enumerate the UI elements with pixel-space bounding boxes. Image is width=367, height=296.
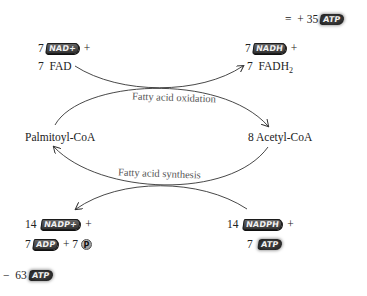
atp-input: 7 ATP bbox=[247, 237, 283, 251]
atp-count: 63 bbox=[15, 269, 27, 281]
nad-plus-icon: NAD+ bbox=[45, 43, 80, 54]
atp-icon: ATP bbox=[28, 270, 53, 281]
net-oxidation-yield: = + 35ATP bbox=[285, 12, 346, 26]
palmitoyl-coa-node: Palmitoyl-CoA bbox=[25, 130, 95, 144]
atp-count: 35 bbox=[307, 13, 319, 25]
fadh2-output: 7 FADH2 bbox=[247, 59, 293, 78]
nadp-plus-icon: NADP+ bbox=[41, 219, 82, 230]
nad-plus-input: 7NAD+ + bbox=[38, 41, 90, 55]
adp-pi-output: 7ADP + 7 P bbox=[25, 237, 92, 251]
coefficient: 14 bbox=[25, 218, 37, 230]
fadh-label: FADH bbox=[259, 60, 289, 72]
plus-sign: + bbox=[297, 13, 304, 25]
fad-input: 7 FAD bbox=[38, 59, 72, 73]
plus-sign: + bbox=[85, 218, 92, 230]
adp-icon: ADP bbox=[32, 239, 59, 250]
plus-sign: + bbox=[63, 238, 70, 250]
equals-sign: = bbox=[285, 13, 292, 25]
coefficient: 7 bbox=[247, 60, 253, 72]
nadph-icon: NADPH bbox=[243, 219, 284, 230]
coefficient: 7 bbox=[38, 42, 44, 54]
synthesis-arrow bbox=[54, 147, 268, 185]
subscript: 2 bbox=[289, 66, 293, 75]
coefficient: 7 bbox=[245, 42, 251, 54]
minus-sign: − bbox=[3, 269, 10, 281]
nadh-output: 7NADH + bbox=[245, 41, 297, 55]
plus-sign: + bbox=[84, 42, 91, 54]
coefficient: 14 bbox=[227, 218, 239, 230]
nadph-to-nadp-arrow bbox=[76, 186, 247, 209]
acetyl-coa-node: 8 Acetyl-CoA bbox=[248, 130, 312, 144]
atp-icon: ATP bbox=[257, 239, 282, 250]
plus-sign: + bbox=[291, 42, 298, 54]
coefficient: 7 bbox=[25, 238, 31, 250]
fad-to-fadh2-arrow bbox=[75, 66, 243, 88]
coefficient: 7 bbox=[247, 238, 253, 250]
nadph-input: 14 NADPH + bbox=[227, 217, 294, 231]
coefficient: 7 bbox=[38, 60, 44, 72]
nadp-plus-output: 14 NADP+ + bbox=[25, 217, 92, 231]
coefficient: 7 bbox=[72, 238, 78, 250]
fad-label: FAD bbox=[50, 60, 72, 72]
plus-sign: + bbox=[287, 218, 294, 230]
nadh-icon: NADH bbox=[252, 43, 287, 54]
atp-icon: ATP bbox=[319, 14, 344, 25]
net-synthesis-cost: − 63ATP bbox=[3, 268, 54, 282]
phosphate-icon: P bbox=[81, 239, 92, 250]
